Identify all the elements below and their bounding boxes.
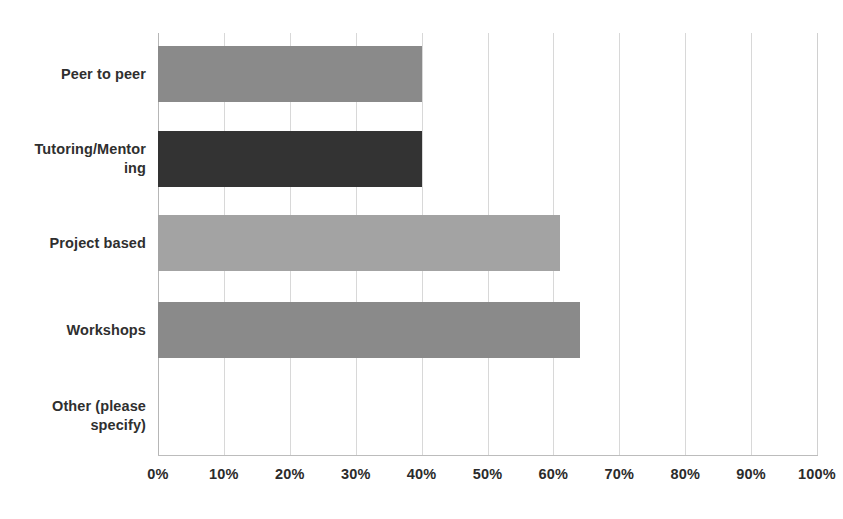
bar-peer-to-peer — [158, 46, 422, 102]
x-axis-tick-labels: 0%10%20%30%40%50%60%70%80%90%100% — [0, 466, 843, 496]
category-label-workshops: Workshops — [10, 321, 158, 340]
category-label-other-please-specify: Other (pleasespecify) — [10, 397, 158, 435]
gridline-100% — [817, 33, 818, 455]
bar-workshops — [158, 302, 580, 358]
x-tick-label-80%: 80% — [670, 466, 700, 482]
x-tick-label-90%: 90% — [736, 466, 766, 482]
bar-tutoring-mentoring — [158, 131, 422, 187]
category-label-line: Workshops — [10, 321, 146, 340]
category-label-peer-to-peer: Peer to peer — [10, 65, 158, 84]
bar-track — [158, 215, 817, 271]
category-label-line: Tutoring/Mentor — [10, 140, 146, 159]
category-label-line: Peer to peer — [10, 65, 146, 84]
category-label-line: Project based — [10, 234, 146, 253]
bar-track — [158, 131, 817, 187]
y-axis-category-labels: Peer to peerTutoring/MentoringProject ba… — [0, 0, 158, 519]
x-axis-baseline — [158, 455, 818, 456]
bar-track — [158, 302, 817, 358]
x-tick-label-30%: 30% — [341, 466, 371, 482]
x-tick-label-40%: 40% — [407, 466, 437, 482]
bar-track — [158, 46, 817, 102]
x-tick-label-70%: 70% — [604, 466, 634, 482]
category-label-line: specify) — [10, 416, 146, 435]
category-label-tutoring-mentoring: Tutoring/Mentoring — [10, 140, 158, 178]
category-label-line: Other (please — [10, 397, 146, 416]
x-tick-label-10%: 10% — [209, 466, 239, 482]
x-tick-label-50%: 50% — [473, 466, 503, 482]
category-label-project-based: Project based — [10, 234, 158, 253]
x-tick-label-100%: 100% — [798, 466, 836, 482]
bar-project-based — [158, 215, 560, 271]
x-tick-label-60%: 60% — [539, 466, 569, 482]
bar-chart-figure: Peer to peerTutoring/MentoringProject ba… — [0, 0, 843, 519]
x-tick-label-20%: 20% — [275, 466, 305, 482]
category-label-line: ing — [10, 159, 146, 178]
x-tick-label-0%: 0% — [147, 466, 168, 482]
plot-area — [158, 33, 817, 455]
